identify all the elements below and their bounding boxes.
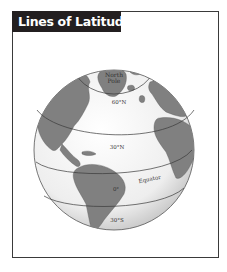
lat-30s-label: 30°S <box>110 217 124 223</box>
lat-0-label: 0° <box>113 186 119 192</box>
globe-illustration: North Pole 60°N 30°N Equator 0° 30°S <box>0 0 227 272</box>
lat-30n-label: 30°N <box>110 144 125 150</box>
lat-60n-label: 60°N <box>112 99 127 105</box>
north-pole-label-2: Pole <box>108 77 121 84</box>
